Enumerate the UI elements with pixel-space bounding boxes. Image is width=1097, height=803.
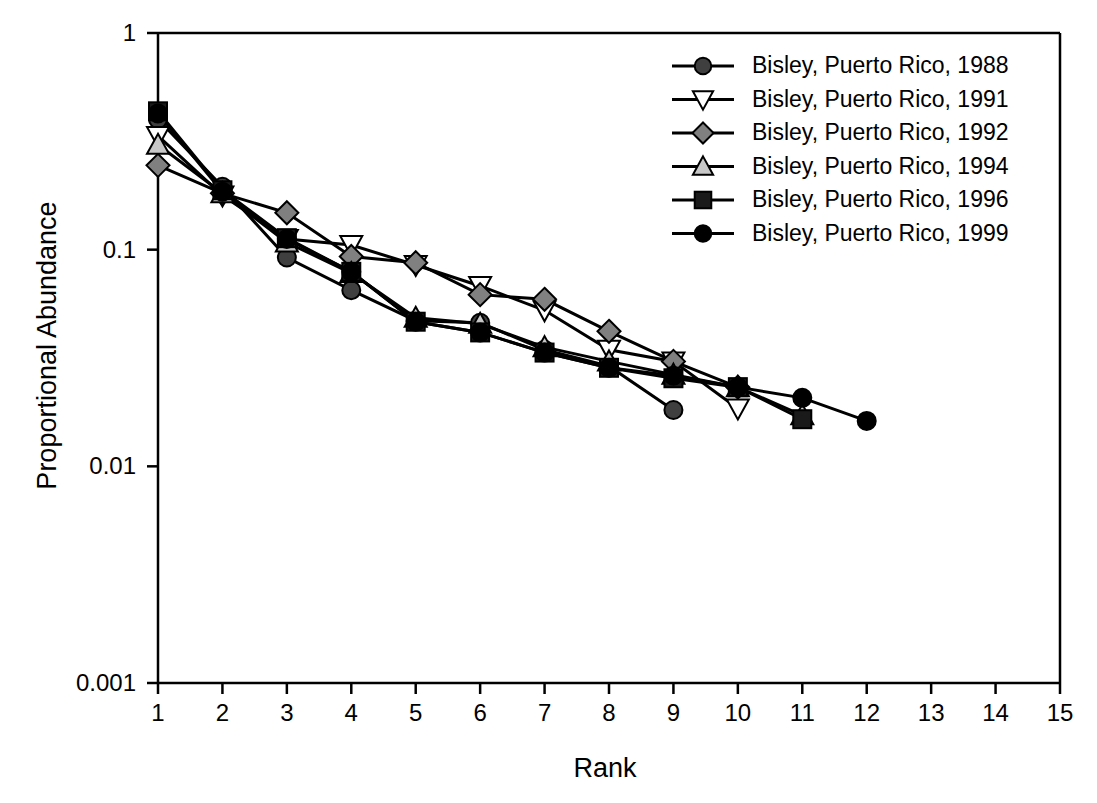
- data-point-marker: [664, 367, 682, 385]
- x-tick-label: 9: [653, 701, 693, 725]
- legend-item-label: Bisley, Puerto Rico, 1999: [752, 222, 1009, 245]
- data-point-marker: [793, 389, 811, 407]
- x-tick-label: 12: [847, 701, 887, 725]
- x-tick-label: 6: [460, 701, 500, 725]
- chart-container: Proportional Abundance Rank 10.10.010.00…: [0, 0, 1097, 803]
- x-tick-label: 8: [589, 701, 629, 725]
- x-tick-label: 3: [267, 701, 307, 725]
- data-point-marker: [404, 251, 427, 274]
- data-series-group: [147, 102, 876, 430]
- data-point-marker: [471, 323, 489, 341]
- series-markers-4: [149, 102, 811, 428]
- series-line-1: [158, 136, 738, 409]
- x-tick-label: 2: [202, 701, 242, 725]
- data-point-marker: [692, 122, 713, 143]
- x-tick-label: 11: [782, 701, 822, 725]
- x-tick-label: 15: [1040, 701, 1080, 725]
- x-tick-label: 7: [525, 701, 565, 725]
- legend-item-label: Bisley, Puerto Rico, 1991: [752, 88, 1009, 111]
- data-point-marker: [695, 192, 712, 209]
- y-tick-label: 0.1: [36, 238, 136, 262]
- y-tick-label: 0.001: [36, 671, 136, 695]
- data-point-marker: [793, 410, 811, 428]
- data-point-marker: [342, 281, 360, 299]
- data-point-marker: [275, 201, 298, 224]
- data-point-marker: [149, 105, 167, 123]
- data-point-marker: [536, 344, 554, 362]
- x-tick-label: 14: [976, 701, 1016, 725]
- data-point-marker: [729, 378, 747, 396]
- x-tick-label: 5: [396, 701, 436, 725]
- legend-item-label: Bisley, Puerto Rico, 1996: [752, 188, 1009, 211]
- data-point-marker: [342, 263, 360, 281]
- data-point-marker: [695, 58, 712, 75]
- data-point-marker: [664, 401, 682, 419]
- x-tick-label: 4: [331, 701, 371, 725]
- data-point-marker: [278, 230, 296, 248]
- data-point-marker: [598, 320, 621, 343]
- data-point-marker: [469, 283, 492, 306]
- x-tick-label: 10: [718, 701, 758, 725]
- x-tick-label: 1: [138, 701, 178, 725]
- data-point-marker: [213, 183, 231, 201]
- data-point-marker: [407, 313, 425, 331]
- x-tick-label: 13: [911, 701, 951, 725]
- legend-marker-group: [672, 58, 734, 242]
- data-point-marker: [727, 399, 749, 419]
- data-point-marker: [147, 154, 170, 177]
- y-tick-label: 1: [36, 21, 136, 45]
- legend-item-label: Bisley, Puerto Rico, 1992: [752, 121, 1009, 144]
- legend-item-label: Bisley, Puerto Rico, 1994: [752, 155, 1009, 178]
- y-tick-label: 0.01: [36, 454, 136, 478]
- data-point-marker: [858, 412, 876, 430]
- data-point-marker: [600, 359, 618, 377]
- legend-item-label: Bisley, Puerto Rico, 1988: [752, 54, 1009, 77]
- data-point-marker: [695, 225, 712, 242]
